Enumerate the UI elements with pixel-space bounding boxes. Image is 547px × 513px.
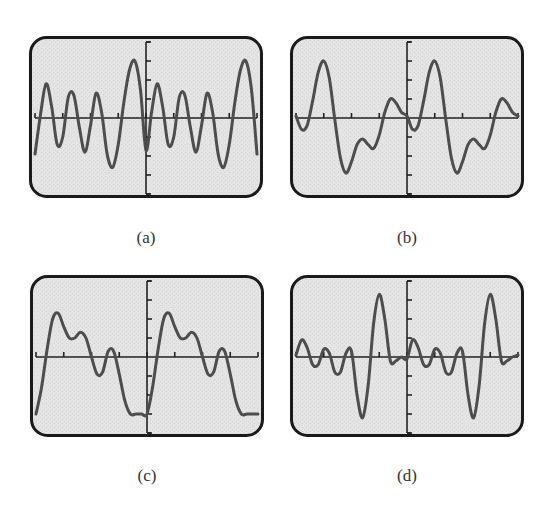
oscilloscope-panel-d — [290, 275, 524, 437]
screen-b — [290, 36, 524, 198]
screen-d — [290, 275, 524, 437]
oscilloscope-panel-c — [30, 275, 264, 437]
panel-label-b: (b) — [377, 228, 437, 248]
screen-a — [29, 36, 263, 198]
screen-c — [30, 275, 264, 437]
panel-label-d: (d) — [377, 466, 437, 486]
oscilloscope-panel-a — [29, 36, 263, 198]
panel-label-c: (c) — [117, 466, 177, 486]
panel-label-a: (a) — [116, 228, 176, 248]
oscilloscope-panel-b — [290, 36, 524, 198]
